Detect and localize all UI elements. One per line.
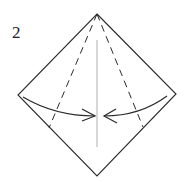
- origami-diagram: [0, 0, 190, 182]
- left-fold-arrow-icon: [23, 97, 95, 121]
- right-valley-fold: [97, 14, 143, 127]
